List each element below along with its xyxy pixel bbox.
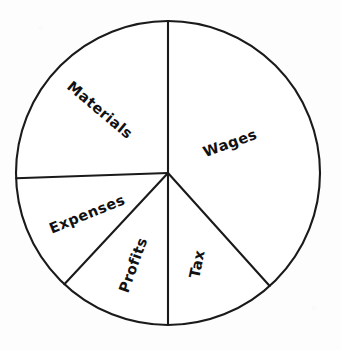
- pie-slice-group: [16, 21, 320, 325]
- pie-chart-svg: [0, 0, 341, 350]
- pie-chart-figure: WagesTaxProfitsExpensesMaterials: [0, 0, 341, 350]
